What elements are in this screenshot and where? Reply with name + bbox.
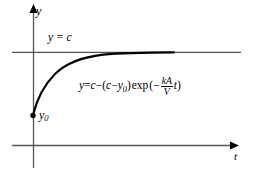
fraction-denominator: V bbox=[161, 86, 173, 97]
initial-value-subscript: 0 bbox=[44, 113, 48, 123]
filled-dot-icon bbox=[30, 113, 35, 118]
fraction-numerator: kA bbox=[161, 76, 173, 86]
rate-fraction: kAV bbox=[161, 76, 173, 97]
equation-exp-minus: − bbox=[153, 79, 160, 91]
initial-value-label: y0 bbox=[39, 109, 49, 123]
equation-close-paren: ) bbox=[127, 79, 131, 91]
asymptote-label: y = c bbox=[48, 32, 72, 44]
axis-label-t: t bbox=[234, 151, 237, 162]
curve-equation: y=c−(c−y0) exp (−kAVt) bbox=[79, 76, 181, 97]
axis-label-y: y bbox=[36, 5, 41, 17]
figure-container: y t y = c y0 y=c−(c−y0) exp (−kAVt) bbox=[0, 0, 260, 176]
arrow-right-icon bbox=[230, 141, 239, 149]
equation-exp: exp bbox=[132, 79, 149, 91]
equation-exp-close-paren: ) bbox=[177, 79, 181, 91]
